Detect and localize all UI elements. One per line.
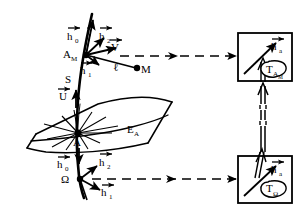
label-h0-below-a: h 0 [57,157,70,173]
label-h0-below-a-letter: h [57,158,63,170]
label-point-am-sub: M [71,55,78,63]
label-surface-ea-sub: A [134,130,139,138]
label-segment-l: ℓ [113,61,118,73]
label-point-am: A M [63,48,78,63]
label-h1-at-omega-sub: 1 [109,193,113,201]
point-m-marker [134,65,140,71]
label-h2-at-omega-letter: h [99,156,105,168]
label-surface-ea-letter: E [127,123,134,135]
label-h2-at-omega-sub: 2 [107,163,111,171]
label-ha-in-box-am-letter: h [271,40,277,52]
label-h0-at-am-letter: h [67,30,73,42]
geometric-diagram: h 0 h 2 V A M h 1 ℓ M S [0,0,299,211]
dashed-arrow-to-box-am [120,52,236,60]
label-h1-at-am: h 1 [80,63,92,79]
label-point-omega: Ω [61,173,69,185]
label-v-at-am-letter: V [111,41,119,53]
curve-s [77,14,92,198]
dashed-arrow-to-box-omega [92,175,236,183]
label-tangent-space-omega-sub: Ω [273,190,278,198]
label-h1-at-am-sub: 1 [88,71,92,79]
label-point-a: A [73,136,81,148]
tangent-space-box-omega[interactable] [238,149,292,203]
label-point-am-letter: A [63,48,71,60]
label-h1-at-omega: h 1 [101,185,114,201]
label-tangent-space-am-sub2: M [278,74,283,80]
label-h2-at-omega: h 2 [99,154,112,171]
ray-star-at-a [44,110,118,150]
label-vector-u: U [58,89,70,102]
vector-h2-at-omega [80,166,97,179]
label-tangent-space-am-letter: T [266,63,273,75]
label-ha-in-box-omega-letter: h [271,163,277,175]
label-tangent-space-omega-letter: T [266,182,273,194]
label-h1-at-am-letter: h [80,64,86,76]
figure-canvas: h 0 h 2 V A M h 1 ℓ M S [0,0,299,211]
tangent-space-box-am[interactable] [238,33,292,82]
label-h0-below-a-sub: 0 [65,165,69,173]
vertical-double-arrow-between-boxes [258,83,268,152]
label-h1-at-omega-letter: h [101,186,107,198]
label-curve-s: S [65,73,71,85]
label-h0-at-am-sub: 0 [75,37,79,45]
label-h0-at-am: h 0 [67,28,80,45]
label-v-at-am: V [110,40,122,53]
label-h2-at-am-letter: h [99,30,105,42]
label-vector-u-letter: U [59,90,67,102]
label-point-m: M [141,63,151,75]
